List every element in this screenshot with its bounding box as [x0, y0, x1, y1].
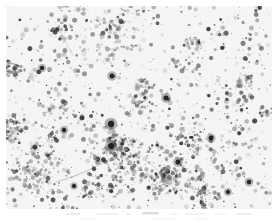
micrograph-figure [0, 0, 277, 223]
bottom-margin-smudges [0, 210, 277, 223]
micrograph-image [6, 6, 272, 209]
bottom-smudge-marks [0, 210, 277, 223]
micrograph-field [6, 6, 272, 209]
